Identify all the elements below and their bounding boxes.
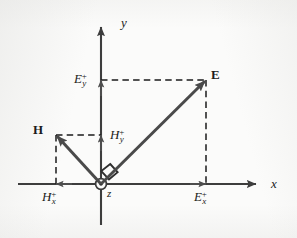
E-vector-label: E [211, 68, 220, 81]
component-tick-arrows [56, 80, 206, 184]
x-axis-label: x [271, 177, 277, 190]
projection-lines-group [56, 80, 206, 184]
E-y-component-sup: + [82, 71, 87, 81]
y-axis-label: y [121, 16, 127, 29]
H-vector-label: H [33, 123, 43, 136]
H-y-component-sup: + [119, 127, 124, 137]
H-x-component-base: H [42, 189, 51, 204]
H-x-component-label: Hx+ [42, 190, 56, 206]
E-y-component-label: Ey+ [74, 72, 87, 88]
H-y-component-label: Hy+ [110, 128, 124, 144]
H-y-component-base: H [110, 127, 119, 142]
E-y-component-base: E [74, 71, 82, 86]
E-x-component-base: E [194, 189, 202, 204]
E-x-component-sup: + [202, 189, 207, 199]
z-axis-label: z [107, 188, 111, 199]
figure-canvas: y x z E H Ey+ Hy+ Ex+ Hx+ [0, 0, 297, 238]
H-x-component-sup: + [51, 189, 56, 199]
field-vectors-group [57, 81, 205, 184]
E-x-component-label: Ex+ [194, 190, 207, 206]
H-vector-arrow [57, 136, 101, 184]
